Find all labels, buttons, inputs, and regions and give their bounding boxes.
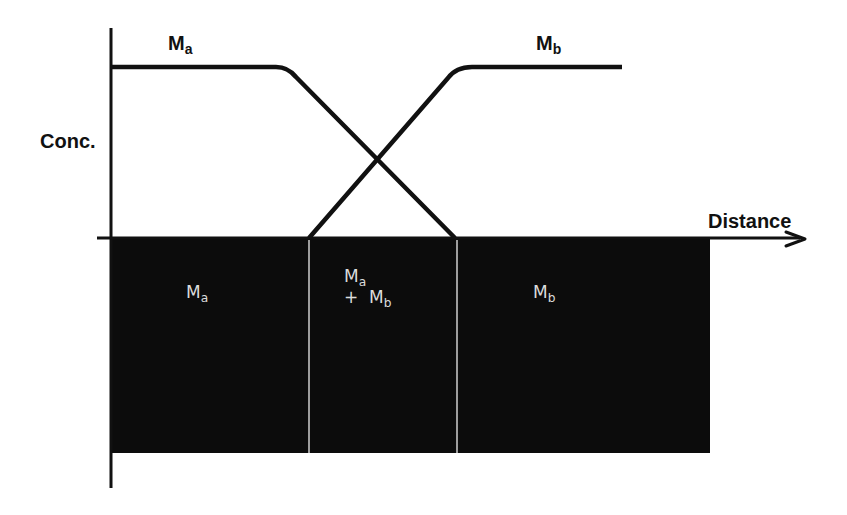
mb-curve-label: Mb <box>536 32 561 57</box>
ma-curve-label: Ma <box>168 32 192 57</box>
mb-concentration-curve <box>309 67 622 238</box>
material-block <box>111 238 710 453</box>
y-axis-label: Conc. <box>40 130 96 153</box>
x-axis-label: Distance <box>708 210 791 233</box>
ma-concentration-curve <box>111 67 455 238</box>
region-label-ma: Ma <box>186 282 208 305</box>
region-label-ma-plus-mb: Ma + Mb <box>344 266 392 311</box>
diffusion-diagram <box>0 0 847 515</box>
region-label-mb: Mb <box>533 282 555 305</box>
